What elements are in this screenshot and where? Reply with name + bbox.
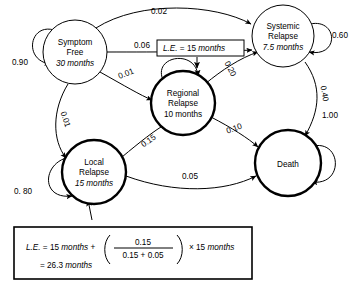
svg-text:× 15 months: × 15 months <box>189 243 234 252</box>
formula-le-c: months <box>61 243 88 252</box>
node-systemic-relapse-value: 7.5 months <box>263 43 304 52</box>
node-death[interactable]: Death <box>255 130 321 196</box>
edge-label-loc-reg: 0.15 <box>139 132 158 149</box>
node-systemic-relapse[interactable]: Systemic Relapse 7.5 months <box>252 5 314 67</box>
le-callout-units: months <box>198 44 225 53</box>
formula-le-prefix: L.E. <box>26 243 41 252</box>
edge-label-sys-dth: 0.40 <box>319 85 331 103</box>
node-systemic-relapse-line1: Systemic <box>266 22 299 31</box>
edge-sys-dth <box>305 62 317 136</box>
node-local-relapse-value: 15 months <box>75 179 113 188</box>
formula-le-d: + <box>88 243 95 252</box>
node-symptom-free[interactable]: Symptom Free 30 months <box>43 20 107 84</box>
node-regional-relapse-line2: Relapse <box>168 99 198 108</box>
formula-multiplier: × 15 <box>189 243 207 252</box>
node-symptom-free-line1: Symptom <box>58 38 93 47</box>
formula-result: = 26.3 <box>40 261 65 270</box>
edge-label-dth-dth: 1.00 <box>322 111 338 120</box>
edge-sf-sys-002 <box>96 8 251 28</box>
le-formula-box: L.E. = 15 months + 0.15 0.15 + 0.05 × 15… <box>14 227 252 279</box>
edge-label-sf-sf: 0.90 <box>12 58 28 67</box>
node-local-relapse-line1: Local <box>84 158 104 167</box>
node-local-relapse[interactable]: Local Relapse 15 months <box>62 140 126 204</box>
svg-text:= 26.3 months: = 26.3 months <box>40 261 92 270</box>
svg-text:L.E. = 15 months +: L.E. = 15 months + <box>26 243 95 252</box>
formula-multiplier-units: months <box>207 243 234 252</box>
node-regional-relapse-value: 10 months <box>164 110 202 119</box>
edge-label-loc-loc: 0. 80 <box>14 187 33 196</box>
node-regional-relapse[interactable]: Regional Relapse 10 months <box>151 71 215 135</box>
edge-label-sys-sys: 0.60 <box>332 31 348 40</box>
le-callout-rest: = 15 <box>178 44 199 53</box>
formula-le-b: = 15 <box>41 243 62 252</box>
node-death-line1: Death <box>277 160 299 169</box>
node-symptom-free-line2: Free <box>67 48 84 57</box>
edge-label-sf-sys: 0.02 <box>151 7 167 16</box>
edge-label-sf-loc: 0.01 <box>59 110 73 128</box>
edge-label-reg-dth: 0.10 <box>225 122 243 136</box>
formula-denominator: 0.15 + 0.05 <box>122 251 164 260</box>
formula-result-units: months <box>65 261 92 270</box>
node-symptom-free-value: 30 months <box>56 59 94 68</box>
le-callout-box: L.E. = 15 months <box>157 40 244 56</box>
edge-label-sf-sys2: 0.06 <box>134 41 150 50</box>
node-local-relapse-line2: Relapse <box>79 168 109 177</box>
node-systemic-relapse-line2: Relapse <box>268 32 298 41</box>
node-regional-relapse-line1: Regional <box>167 89 199 98</box>
edge-label-loc-dth: 0.05 <box>182 172 198 181</box>
formula-numerator: 0.15 <box>135 238 151 247</box>
svg-text:L.E. = 15 months: L.E. = 15 months <box>163 44 225 53</box>
edge-label-sf-reg: 0.01 <box>117 66 136 80</box>
le-callout-prefix: L.E. <box>163 44 178 53</box>
state-transition-diagram: Symptom Free 30 months Systemic Relapse … <box>0 0 358 286</box>
